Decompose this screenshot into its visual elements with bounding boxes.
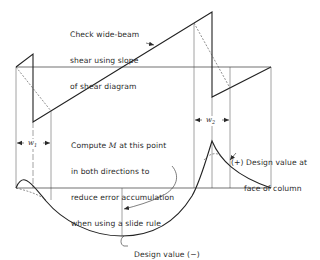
annotation-compute-m-line3: reduce error accumulation: [71, 194, 174, 203]
shear-diagram: [16, 12, 271, 122]
annotation-compute-m: Compute M at this point in both directio…: [71, 125, 174, 237]
annotation-compute-m-line1: Compute M at this point: [71, 142, 174, 151]
annotation-wide-beam: Check wide-beam shear using slope of she…: [70, 14, 139, 100]
moment-dashed-left: [16, 188, 46, 200]
moment-symbol: M: [109, 141, 117, 150]
annotation-design-negative: Design value (−): [129, 242, 200, 259]
leader-wide-beam: [146, 43, 154, 45]
annotation-wide-beam-line2: shear using slope: [70, 57, 139, 66]
annotation-design-positive-line2: face of column: [231, 185, 307, 194]
leader-design-negative: [121, 236, 128, 246]
annotation-compute-m-line4: when using a slide rule: [71, 220, 174, 229]
annotation-design-positive: (+) Design value at face of column: [231, 142, 307, 202]
annotation-compute-m-line2: in both directions to: [71, 168, 174, 177]
annotation-wide-beam-line1: Check wide-beam: [70, 31, 139, 40]
dimension-w1-label: w1: [27, 139, 38, 149]
dimension-w2-label: w2: [205, 116, 216, 126]
annotation-design-positive-line1: (+) Design value at: [231, 159, 307, 168]
annotation-wide-beam-line3: of shear diagram: [70, 83, 139, 92]
